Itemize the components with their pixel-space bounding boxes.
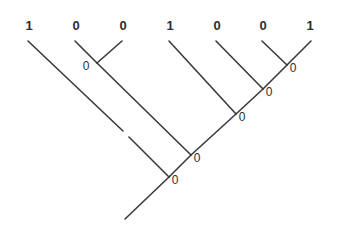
- node-label-e: 0: [239, 111, 246, 123]
- leaf-label-6: 0: [259, 19, 266, 32]
- leaf-label-3: 0: [119, 19, 126, 32]
- branch-leaf1-lower: [129, 137, 169, 177]
- node-label-f: 0: [266, 86, 273, 98]
- tree-branches-svg: [0, 0, 337, 228]
- branch-node-e-stem: [191, 114, 236, 155]
- branch-leaf6: [262, 41, 287, 65]
- node-label-c: 0: [172, 174, 179, 186]
- node-label-d: 0: [194, 152, 201, 164]
- cladogram-figure: 1 0 0 1 0 0 1 0 0 0 0 0 0: [0, 0, 337, 228]
- leaf-label-1: 1: [25, 19, 32, 32]
- branch-root: [125, 177, 169, 219]
- leaf-label-2: 0: [72, 19, 79, 32]
- branch-leaf5: [216, 41, 263, 89]
- leaf-label-7: 1: [306, 19, 313, 32]
- branch-leaf3: [97, 41, 122, 63]
- branch-leaf1: [28, 41, 123, 131]
- node-label-g: 0: [290, 62, 297, 74]
- leaf-label-5: 0: [213, 19, 220, 32]
- node-label-a: 0: [83, 60, 90, 72]
- leaf-label-4: 1: [166, 19, 173, 32]
- branch-node-a-stem: [97, 63, 191, 155]
